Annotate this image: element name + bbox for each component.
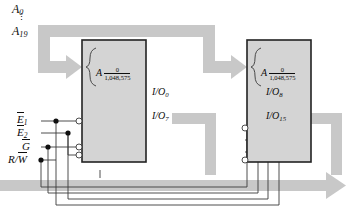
- memory-chip-left[interactable]: [82, 40, 146, 162]
- address-bus-ellipsis: ⋮: [17, 12, 26, 22]
- memory-expansion-diagram: [0, 0, 354, 224]
- control-label-read-write: R/W: [8, 153, 27, 165]
- chip-left-io-label-top: I/O0: [152, 86, 169, 98]
- chip-left-address-range: A 0 1,048,575: [96, 66, 130, 82]
- address-bus-label-bottom: A19: [12, 24, 28, 39]
- combined-data-bus-output: [0, 172, 346, 199]
- wire-junction-dots: [38, 118, 70, 162]
- control-label-enable-2: E2: [17, 126, 27, 140]
- data-bus-io-0-7: [172, 113, 216, 175]
- chip-right-io-label-top: I/O8: [266, 86, 283, 98]
- memory-chip-right[interactable]: [247, 40, 311, 162]
- chip-right-io-label-bottom: I/O15: [266, 110, 286, 122]
- control-label-output-enable: G: [22, 140, 30, 152]
- chip-left-io-label-bottom: I/O7: [152, 110, 169, 122]
- chip-right-address-range: A 0 1,048,575: [261, 66, 295, 82]
